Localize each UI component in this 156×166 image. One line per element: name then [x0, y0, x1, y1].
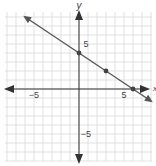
coordinate-plane: −555−5yx	[0, 0, 156, 166]
y-axis-up-arrow-icon	[75, 10, 83, 20]
data-point	[131, 87, 136, 92]
data-point	[77, 51, 82, 56]
axes	[4, 10, 150, 164]
line-end-arrow-icon	[144, 95, 153, 102]
data-point	[104, 69, 109, 74]
tick-labels: −555−5yx	[29, 0, 156, 139]
x-tick-label: −5	[29, 90, 39, 100]
y-tick-label: −5	[81, 129, 91, 139]
x-axis-left-arrow-icon	[4, 85, 14, 93]
x-axis-label: x	[152, 84, 156, 93]
y-tick-label: 5	[83, 39, 88, 49]
y-axis-label: y	[76, 0, 83, 11]
y-axis-down-arrow-icon	[75, 154, 83, 164]
x-tick-label: 5	[121, 90, 126, 100]
x-axis-right-arrow-icon	[140, 85, 150, 93]
